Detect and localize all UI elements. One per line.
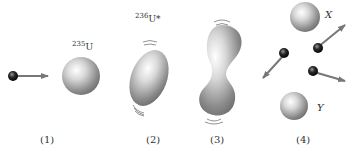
stage-2	[122, 41, 176, 117]
uranium-235-nucleus	[62, 57, 100, 95]
neutron	[8, 71, 18, 81]
label-uranium-236: 236U*	[135, 12, 160, 24]
caption-stage-3: (3)	[210, 134, 224, 145]
stage-3	[199, 20, 241, 124]
vibration-lines-bottom	[133, 105, 144, 116]
neutron-arrow	[318, 25, 345, 47]
stage-4	[263, 2, 345, 120]
vibration-lines-bottom	[205, 119, 223, 124]
vibration-lines-top	[143, 41, 157, 46]
neutron	[308, 66, 318, 76]
element-symbol: U	[85, 42, 93, 52]
neutron	[279, 48, 289, 58]
excited-uranium-236-nucleus	[122, 45, 176, 112]
fragment-x	[290, 2, 320, 32]
label-uranium-235: 235U	[72, 40, 93, 52]
caption-stage-1: (1)	[40, 134, 54, 145]
fragment-x-label: X	[325, 9, 332, 20]
fragment-y-label: Y	[317, 102, 324, 113]
stage-1	[8, 57, 100, 95]
neutron	[313, 43, 323, 53]
caption-stage-4: (4)	[296, 134, 310, 145]
mass-number: 235	[72, 40, 85, 48]
fission-diagram	[0, 0, 353, 152]
mass-number: 236	[135, 12, 148, 20]
element-symbol: U*	[148, 14, 160, 24]
neutron-arrow	[314, 72, 345, 81]
vibration-lines-top	[214, 20, 230, 25]
fragment-y	[280, 92, 308, 120]
neutron-arrow	[263, 56, 283, 78]
caption-stage-2: (2)	[146, 134, 160, 145]
deformed-nucleus	[199, 25, 241, 115]
